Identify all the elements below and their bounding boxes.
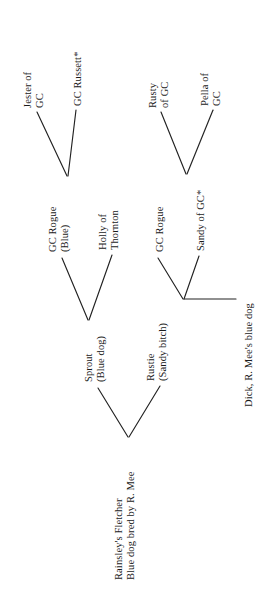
node-gc-rogue-line1: GC Rogue (154, 207, 166, 252)
node-sandy-of-gc: Sandy of GC* (195, 190, 207, 251)
node-sprout: Sprout (Blue dog) (83, 336, 107, 382)
pedigree-chart: Jester of GC GC Russett* Rusty of GC Pel… (0, 0, 264, 597)
node-rustie-line2: (Sandy bitch) (157, 323, 169, 381)
line-gcrogueblue-to-sprout (62, 258, 88, 320)
node-gc-russett: GC Russett* (72, 52, 84, 106)
node-rustie: Rustie (Sandy bitch) (145, 323, 169, 381)
node-pella-of-gc: Pella of GC (199, 73, 223, 106)
node-sprout-line1: Sprout (83, 336, 95, 382)
line-sprout-to-root (98, 388, 128, 437)
node-sprout-line2: (Blue dog) (95, 336, 107, 382)
line-holly-to-sprout (89, 255, 112, 320)
line-rusty-to-sandy (161, 112, 186, 174)
node-jester-of-gc-line2: GC (34, 72, 46, 108)
node-gc-rogue-blue: GC Rogue (Blue) (47, 207, 71, 252)
node-dick-r-mees-blue-dog-line1: Dick, R. Mee's blue dog (243, 303, 255, 407)
line-rustie-to-root (129, 386, 160, 437)
node-dick-r-mees-blue-dog: Dick, R. Mee's blue dog (243, 303, 255, 407)
line-gcrogue-to-rustie (158, 258, 183, 299)
node-jester-of-gc: Jester of GC (22, 72, 46, 108)
node-pella-of-gc-line1: Pella of (199, 73, 211, 106)
node-gc-rogue: GC Rogue (154, 207, 166, 252)
node-gc-rogue-blue-line1: GC Rogue (47, 207, 59, 252)
node-rusty-of-gc: Rusty of GC (147, 82, 171, 108)
node-jester-of-gc-line1: Jester of (22, 72, 34, 108)
node-holly-of-thornton-line2: Thornton (109, 210, 121, 250)
node-rainsleys-fletcher-line2: Blue dog bred by R. Mee (125, 472, 137, 580)
node-holly-of-thornton: Holly of Thornton (97, 210, 121, 250)
node-rustie-line1: Rustie (145, 323, 157, 381)
node-rainsleys-fletcher: Rainsley's Fletcher Blue dog bred by R. … (113, 472, 137, 580)
node-gc-rogue-blue-line2: (Blue) (59, 207, 71, 252)
node-pella-of-gc-line2: GC (211, 73, 223, 106)
node-rusty-of-gc-line2: of GC (159, 82, 171, 108)
node-rusty-of-gc-line1: Rusty (147, 82, 159, 108)
line-sandy-to-rustie (184, 256, 199, 299)
node-gc-russett-line1: GC Russett* (72, 52, 84, 106)
node-holly-of-thornton-line1: Holly of (97, 210, 109, 250)
node-sandy-of-gc-line1: Sandy of GC* (195, 190, 207, 251)
line-gcrussett-to-gcrogueblue (68, 110, 76, 176)
line-pella-to-sandy (187, 110, 213, 174)
line-jester-to-gcrogueblue (37, 112, 67, 176)
node-rainsleys-fletcher-line1: Rainsley's Fletcher (113, 472, 125, 580)
